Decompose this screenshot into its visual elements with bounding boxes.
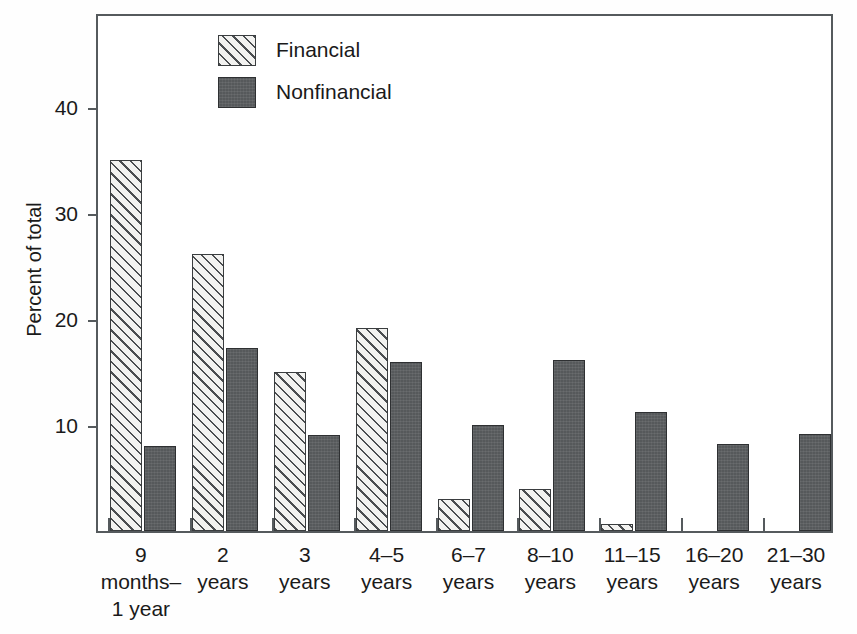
x-axis-tick [272, 518, 274, 531]
x-axis-tick [763, 518, 765, 531]
legend-item-financial: Financial [218, 32, 392, 68]
x-axis-category-label: 21–30 years [726, 541, 857, 595]
legend-label-financial: Financial [276, 38, 360, 62]
bar-financial [601, 524, 633, 531]
x-axis-tick [354, 518, 356, 531]
y-axis-tick-label: 10 [0, 414, 78, 438]
legend: Financial Nonfinancial [218, 32, 392, 116]
plot-area: Financial Nonfinancial [96, 14, 833, 533]
bar-nonfinancial [635, 412, 667, 531]
bar-nonfinancial [472, 425, 504, 531]
bar-nonfinancial [390, 362, 422, 531]
bar-financial [356, 328, 388, 531]
bar-financial [110, 160, 142, 531]
bar-nonfinancial [717, 444, 749, 531]
x-axis-tick [599, 518, 601, 531]
bar-nonfinancial [799, 434, 831, 531]
chart-root: 40302010 Percent of total Financial Nonf… [0, 0, 857, 634]
bar-financial [438, 499, 470, 531]
legend-label-nonfinancial: Nonfinancial [276, 80, 392, 104]
x-axis-tick [108, 518, 110, 531]
x-axis-tick [190, 518, 192, 531]
y-axis-tick-label: 40 [0, 96, 78, 120]
x-axis-tick [436, 518, 438, 531]
x-axis-tick [517, 518, 519, 531]
bar-nonfinancial [226, 348, 258, 531]
legend-item-nonfinancial: Nonfinancial [218, 74, 392, 110]
y-axis-title: Percent of total [23, 140, 46, 400]
legend-swatch-nonfinancial-icon [218, 77, 256, 108]
bar-nonfinancial [553, 360, 585, 531]
bar-nonfinancial [144, 446, 176, 531]
x-axis-tick [681, 518, 683, 531]
bar-financial [274, 372, 306, 531]
bar-layer [98, 16, 831, 531]
legend-swatch-financial-icon [218, 35, 256, 66]
x-axis-category-labels: 9 months– 1 year2 years3 years4–5 years6… [0, 541, 857, 634]
bar-financial [192, 254, 224, 532]
bar-financial [519, 489, 551, 531]
bar-nonfinancial [308, 435, 340, 531]
